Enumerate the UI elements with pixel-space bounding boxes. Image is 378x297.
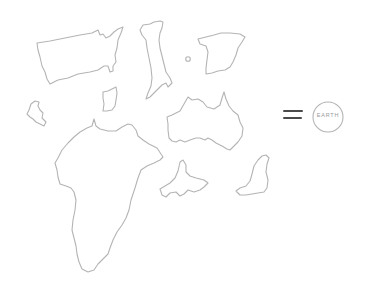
earth-circle-icon [0, 0, 378, 297]
illustration-canvas: EARTH [0, 0, 378, 297]
earth-label: EARTH [313, 112, 343, 118]
